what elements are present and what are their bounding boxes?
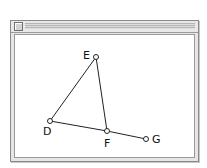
point-D[interactable] <box>48 119 53 124</box>
point-label-E: E <box>83 49 90 62</box>
segment-DE[interactable] <box>50 57 96 121</box>
point-label-G: G <box>152 133 161 146</box>
geometry-diagram: EDFG <box>0 0 207 168</box>
segments <box>50 57 146 139</box>
point-F[interactable] <box>105 129 110 134</box>
point-E[interactable] <box>94 55 99 60</box>
point-labels: EDFG <box>43 49 161 150</box>
segment-DF[interactable] <box>50 121 107 131</box>
point-label-F: F <box>104 137 110 150</box>
segment-FG[interactable] <box>107 131 146 139</box>
point-G[interactable] <box>144 137 149 142</box>
point-label-D: D <box>43 125 51 138</box>
segment-EF[interactable] <box>96 57 107 131</box>
